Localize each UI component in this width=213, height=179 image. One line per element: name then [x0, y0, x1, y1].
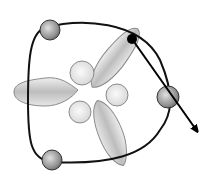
direction-arrow	[132, 39, 197, 131]
atom-sphere-top-left	[40, 20, 60, 40]
atom-sphere-bottom-left	[42, 150, 62, 170]
center-circle	[69, 101, 91, 123]
lobe-upper-right	[83, 22, 146, 94]
orbital-diagram	[0, 0, 213, 179]
lobe-left	[14, 78, 78, 106]
center-circle	[70, 61, 94, 85]
particle-dot	[127, 34, 137, 44]
center-circle	[106, 84, 128, 106]
